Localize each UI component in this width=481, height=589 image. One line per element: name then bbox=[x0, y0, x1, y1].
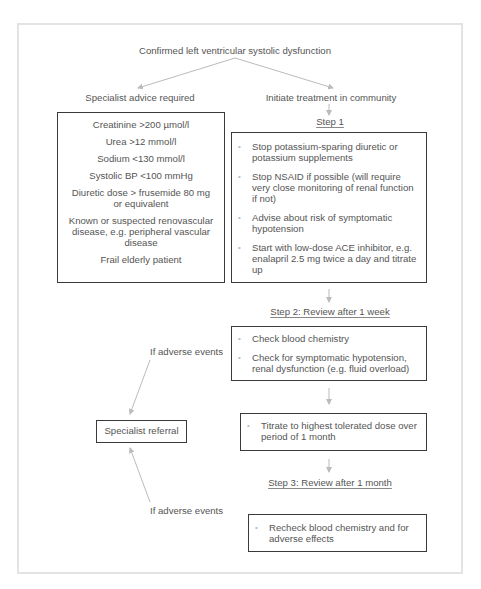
step2-item: •Check for symptomatic hypotension, rena… bbox=[232, 352, 426, 374]
branch-specialist-advice: Specialist advice required bbox=[85, 92, 194, 104]
step1-box: •Stop potassium-sparing diuretic or pota… bbox=[231, 132, 427, 283]
criterion-urea: Urea >12 mmol/l bbox=[68, 136, 214, 147]
bullet-icon: • bbox=[238, 171, 241, 182]
criterion-frail-elderly: Frail elderly patient bbox=[68, 254, 214, 265]
specialist-referral-box: Specialist referral bbox=[96, 420, 187, 443]
step2-box: •Check blood chemistry •Check for sympto… bbox=[231, 326, 427, 381]
criterion-diuretic-dose: Diuretic dose > frusemide 80 mg or equiv… bbox=[68, 187, 214, 209]
bullet-icon: • bbox=[238, 333, 241, 344]
step2-item: •Check blood chemistry bbox=[232, 333, 426, 344]
bullet-icon: • bbox=[238, 352, 241, 363]
criterion-sodium: Sodium <130 mmol/l bbox=[68, 153, 214, 164]
titrate-item: •Titrate to highest tolerated dose over … bbox=[241, 420, 426, 442]
step3-item: •Recheck blood chemistry and for adverse… bbox=[249, 522, 426, 544]
branch-community-treatment: Initiate treatment in community bbox=[266, 92, 397, 104]
specialist-criteria-box: Creatinine >200 µmol/l Urea >12 mmol/l S… bbox=[57, 112, 225, 283]
criterion-systolic-bp: Systolic BP <100 mmHg bbox=[68, 170, 214, 181]
step1-item: •Stop NSAID if possible (will require ve… bbox=[232, 171, 426, 204]
bullet-icon: • bbox=[238, 212, 241, 223]
step1-item: •Advise about risk of symptomatic hypote… bbox=[232, 212, 426, 234]
bullet-icon: • bbox=[247, 420, 250, 431]
step1-item: •Start with low-dose ACE inhibitor, e.g.… bbox=[232, 242, 426, 275]
step1-label: Step 1 bbox=[316, 116, 344, 128]
bullet-icon: • bbox=[255, 522, 258, 533]
diagram-title: Confirmed left ventricular systolic dysf… bbox=[139, 45, 331, 57]
step2-label: Step 2: Review after 1 week bbox=[270, 306, 389, 318]
titrate-box: •Titrate to highest tolerated dose over … bbox=[240, 413, 427, 451]
adverse-events-upper: If adverse events bbox=[150, 346, 223, 358]
criterion-creatinine: Creatinine >200 µmol/l bbox=[68, 119, 214, 130]
bullet-icon: • bbox=[238, 242, 241, 253]
adverse-events-lower: If adverse events bbox=[150, 505, 223, 517]
step1-item: •Stop potassium-sparing diuretic or pota… bbox=[232, 141, 426, 163]
step3-box: •Recheck blood chemistry and for adverse… bbox=[248, 514, 427, 552]
step3-label: Step 3: Review after 1 month bbox=[268, 477, 392, 489]
criterion-renovascular: Known or suspected renovascular disease,… bbox=[68, 215, 214, 248]
diagram-frame bbox=[17, 23, 463, 574]
bullet-icon: • bbox=[238, 141, 241, 152]
